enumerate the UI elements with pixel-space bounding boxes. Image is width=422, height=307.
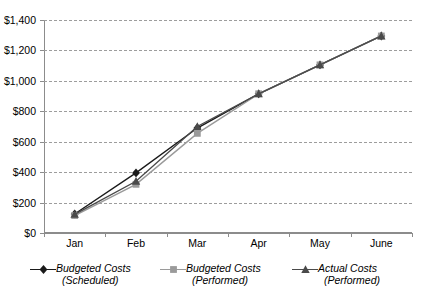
square-marker xyxy=(170,266,177,273)
square-marker xyxy=(160,263,186,276)
y-axis-tick-label: $800 xyxy=(13,106,36,116)
legend-item[interactable]: Budgeted Costs(Performed) xyxy=(160,262,261,286)
x-axis-tick-label: Mar xyxy=(188,237,206,249)
legend-glyph xyxy=(169,265,178,274)
legend-label-line2: (Scheduled) xyxy=(56,274,131,286)
x-axis-tick-label: Feb xyxy=(127,237,145,249)
legend-label-line2: (Performed) xyxy=(186,274,261,286)
y-axis-tick-label: $400 xyxy=(13,167,36,177)
triangle-marker xyxy=(292,263,318,276)
x-axis-tick xyxy=(412,233,413,237)
series-line xyxy=(75,36,382,214)
x-axis-tick-label: Jan xyxy=(66,237,83,249)
diamond-marker xyxy=(132,169,140,178)
legend-label: Budgeted Costs(Scheduled) xyxy=(56,262,131,286)
legend-label-line2: (Performed) xyxy=(318,274,380,286)
y-axis-tick-label: $0 xyxy=(24,228,36,238)
legend-label: Actual Costs(Performed) xyxy=(318,262,380,286)
legend-item[interactable]: Actual Costs(Performed) xyxy=(292,262,380,286)
diamond-marker xyxy=(30,263,56,276)
line-chart: $0$200$400$600$800$1,000$1,200$1,400 Jan… xyxy=(0,0,422,307)
y-axis-tick-label: $600 xyxy=(13,137,36,147)
x-axis-tick-label: June xyxy=(370,237,393,249)
square-marker xyxy=(194,130,201,137)
series-line xyxy=(75,36,382,216)
y-axis-tick-label: $200 xyxy=(13,198,36,208)
x-axis-tick-label: May xyxy=(310,237,330,249)
legend-item[interactable]: Budgeted Costs(Scheduled) xyxy=(30,262,131,286)
y-axis-tick-label: $1,400 xyxy=(4,15,36,25)
plot-area xyxy=(44,20,412,233)
diamond-marker xyxy=(40,265,48,274)
triangle-marker xyxy=(301,265,309,273)
y-axis-tick-label: $1,000 xyxy=(4,76,36,86)
y-axis-labels: $0$200$400$600$800$1,000$1,200$1,400 xyxy=(0,20,40,233)
chart-legend: Budgeted Costs(Scheduled)Budgeted Costs(… xyxy=(0,262,422,306)
legend-label: Budgeted Costs(Performed) xyxy=(186,262,261,286)
series-triangle xyxy=(70,32,385,218)
series-line xyxy=(75,36,382,214)
legend-label-line1: Budgeted Costs xyxy=(56,262,131,274)
legend-glyph xyxy=(301,265,310,274)
series-layer xyxy=(44,20,412,233)
legend-label-line1: Actual Costs xyxy=(318,262,377,274)
y-axis-tick-label: $1,200 xyxy=(4,45,36,55)
legend-glyph xyxy=(39,265,48,274)
legend-label-line1: Budgeted Costs xyxy=(186,262,261,274)
x-axis-tick-label: Apr xyxy=(250,237,266,249)
x-axis-labels: JanFebMarAprMayJune xyxy=(44,237,412,253)
